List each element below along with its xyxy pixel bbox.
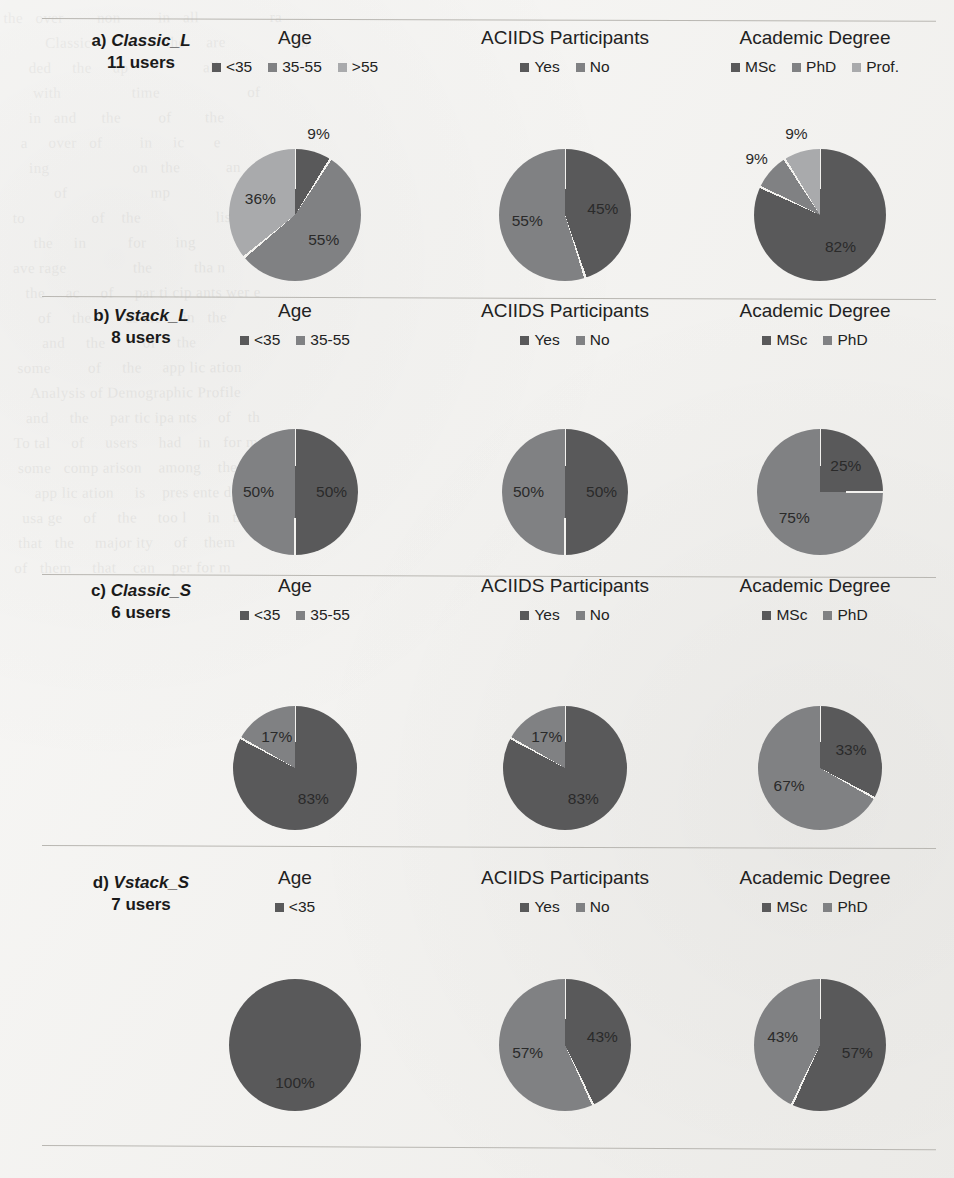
chart-legend: MScPhD (690, 331, 940, 349)
legend-label: 35-55 (310, 331, 350, 349)
legend-swatch-icon (240, 611, 249, 620)
pie-chart[interactable]: 57%43% (754, 979, 886, 1111)
chart-panel-b-aciids-participants: ACIIDS ParticipantsYesNo (440, 299, 690, 349)
legend-label: Prof. (866, 58, 899, 76)
chart-title: ACIIDS Participants (440, 866, 690, 889)
chart-title: Age (170, 26, 420, 49)
legend-item[interactable]: 35-55 (296, 331, 350, 349)
legend-swatch-icon (576, 63, 585, 72)
pie-chart[interactable]: 82%9%9% (754, 149, 886, 281)
row-label-prefix: d) (93, 873, 109, 892)
legend-swatch-icon (823, 611, 832, 620)
legend-item[interactable]: Yes (520, 898, 559, 916)
chart-title: ACIIDS Participants (440, 574, 690, 597)
legend-swatch-icon (852, 63, 861, 72)
legend-item[interactable]: 35-55 (268, 58, 322, 76)
legend-swatch-icon (296, 336, 305, 345)
pie-chart[interactable]: 83%17% (503, 706, 627, 830)
legend-item[interactable]: MSc (762, 898, 807, 916)
legend-label: <35 (254, 606, 280, 624)
legend-swatch-icon (823, 903, 832, 912)
chart-legend: <35 (170, 898, 420, 916)
pie-chart[interactable]: 33%67% (758, 706, 882, 830)
legend-item[interactable]: MSc (731, 58, 776, 76)
legend-label: >55 (352, 58, 378, 76)
pie-chart[interactable]: 83%17% (233, 706, 357, 830)
chart-panel-a-age: Age<3535-55>55 (170, 26, 420, 76)
chart-title: Age (170, 866, 420, 889)
legend-label: 35-55 (310, 606, 350, 624)
legend-item[interactable]: No (576, 606, 610, 624)
legend-item[interactable]: No (576, 58, 610, 76)
legend-item[interactable]: MSc (762, 331, 807, 349)
legend-swatch-icon (275, 903, 284, 912)
legend-label: No (590, 58, 610, 76)
chart-legend: <3535-55 (170, 606, 420, 624)
legend-label: No (590, 331, 610, 349)
pie-chart[interactable]: 50%50% (502, 429, 628, 555)
legend-label: <35 (254, 331, 280, 349)
legend-item[interactable]: <35 (275, 898, 315, 916)
pie-chart[interactable]: 43%57% (499, 979, 631, 1111)
legend-item[interactable]: Yes (520, 58, 559, 76)
pie-chart[interactable]: 50%50% (232, 429, 358, 555)
legend-item[interactable]: <35 (240, 331, 280, 349)
legend-label: MSc (776, 606, 807, 624)
pie-slice-label: 50% (586, 483, 617, 501)
pie-slice-label: 17% (261, 728, 292, 746)
legend-item[interactable]: PhD (823, 331, 867, 349)
chart-title: ACIIDS Participants (440, 26, 690, 49)
pie-chart[interactable]: 45%55% (499, 149, 631, 281)
legend-item[interactable]: Yes (520, 331, 559, 349)
legend-label: 35-55 (282, 58, 322, 76)
pie-chart[interactable]: 100% (229, 979, 361, 1111)
row-label-prefix: a) (91, 31, 106, 50)
pie-slice-label: 50% (316, 483, 347, 501)
legend-label: No (590, 898, 610, 916)
chart-legend: MScPhD (690, 898, 940, 916)
legend-swatch-icon (762, 611, 771, 620)
legend-swatch-icon (520, 63, 529, 72)
pie-chart[interactable]: 25%75% (757, 429, 883, 555)
legend-label: <35 (226, 58, 252, 76)
pie-slice-label: 100% (275, 1074, 315, 1092)
legend-item[interactable]: 35-55 (296, 606, 350, 624)
pie-slice-label: 33% (835, 741, 866, 759)
legend-item[interactable]: Prof. (852, 58, 899, 76)
pie-slice-label: 55% (308, 231, 339, 249)
chart-legend: MScPhD (690, 606, 940, 624)
legend-label: Yes (534, 58, 559, 76)
legend-label: <35 (289, 898, 315, 916)
pie-slice-label: 25% (830, 457, 861, 475)
legend-label: PhD (806, 58, 836, 76)
legend-item[interactable]: PhD (823, 606, 867, 624)
pie-slice-label: 83% (568, 790, 599, 808)
chart-title: Academic Degree (690, 299, 940, 322)
legend-item[interactable]: No (576, 331, 610, 349)
legend-item[interactable]: <35 (212, 58, 252, 76)
legend-item[interactable]: PhD (792, 58, 836, 76)
legend-label: PhD (837, 606, 867, 624)
chart-legend: YesNo (440, 898, 690, 916)
legend-item[interactable]: Yes (520, 606, 559, 624)
legend-label: Yes (534, 331, 559, 349)
pie-chart[interactable]: 9%55%36% (229, 149, 361, 281)
legend-item[interactable]: >55 (338, 58, 378, 76)
legend-item[interactable]: PhD (823, 898, 867, 916)
legend-item[interactable]: No (576, 898, 610, 916)
legend-item[interactable]: MSc (762, 606, 807, 624)
legend-swatch-icon (520, 903, 529, 912)
legend-label: No (590, 606, 610, 624)
legend-swatch-icon (762, 336, 771, 345)
row-label-prefix: b) (93, 306, 109, 325)
chart-title: Academic Degree (690, 26, 940, 49)
legend-label: MSc (776, 898, 807, 916)
legend-swatch-icon (338, 63, 347, 72)
legend-item[interactable]: <35 (240, 606, 280, 624)
pie-slice-label: 36% (245, 190, 276, 208)
legend-swatch-icon (576, 336, 585, 345)
chart-legend: YesNo (440, 58, 690, 76)
pie-slice-label: 75% (779, 509, 810, 527)
legend-swatch-icon (823, 336, 832, 345)
pie-slice-label: 57% (842, 1044, 873, 1062)
